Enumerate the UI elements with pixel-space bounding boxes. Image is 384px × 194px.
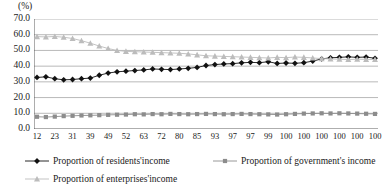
data-series <box>35 111 377 119</box>
data-point-marker <box>284 112 288 116</box>
data-point-marker <box>373 112 377 116</box>
data-point-marker <box>150 66 156 72</box>
legend-label: Proportion of government's income <box>241 155 375 167</box>
legend-marker-square-icon <box>212 154 238 168</box>
plot-area <box>34 19 378 129</box>
data-point-marker <box>105 70 111 76</box>
y-axis-tick-label: 20.0 <box>13 93 30 103</box>
x-axis-tick-label: 49 <box>104 131 113 141</box>
data-point-marker <box>311 111 315 115</box>
chart-legend: Proportion of residents'incomeProportion… <box>24 152 376 190</box>
data-point-marker <box>176 66 182 72</box>
y-axis-tick-label: 60.0 <box>13 30 30 40</box>
legend-entry[interactable]: Proportion of government's income <box>212 152 375 169</box>
x-axis-tick-label: 100 <box>369 131 382 141</box>
data-point-marker <box>293 112 297 116</box>
data-point-marker <box>70 114 74 118</box>
data-point-marker <box>168 67 174 73</box>
legend-marker-diamond-icon <box>24 154 50 168</box>
x-axis-tick-label: 80 <box>175 131 184 141</box>
x-axis-tick-label: 100 <box>297 131 310 141</box>
data-point-marker <box>151 112 155 116</box>
x-axis-tick-label: 63 <box>139 131 148 141</box>
data-point-marker <box>302 112 306 116</box>
data-point-marker <box>222 112 226 116</box>
data-point-marker <box>204 112 208 116</box>
chart-figure: (%) 0.010.020.030.040.050.060.070.0 1223… <box>0 0 384 194</box>
data-point-marker <box>266 112 270 116</box>
data-point-marker <box>194 65 200 71</box>
data-point-marker <box>87 75 93 81</box>
x-axis-tick-label: 97 <box>246 131 255 141</box>
legend-entry[interactable]: Proportion of residents'income <box>24 152 170 169</box>
y-axis-unit-label: (%) <box>18 1 32 11</box>
x-axis-tick-label: 12 <box>33 131 42 141</box>
data-point-marker <box>62 114 66 118</box>
data-point-marker <box>141 67 147 73</box>
data-point-marker <box>230 61 236 67</box>
x-axis-tick-label: 100 <box>333 131 346 141</box>
data-point-marker <box>159 66 165 72</box>
data-point-marker <box>88 113 92 117</box>
data-point-marker <box>34 158 40 164</box>
y-axis-tick-label: 0.0 <box>18 124 30 134</box>
data-point-marker <box>195 112 199 116</box>
x-axis-tick-label: 31 <box>68 131 77 141</box>
data-point-marker <box>256 60 262 66</box>
x-axis-tick-label: 52 <box>122 131 131 141</box>
x-axis-tick-labels: 1223313949526372808593979799100100100100… <box>34 131 378 145</box>
data-point-marker <box>123 68 129 74</box>
y-axis-tick-labels: 0.010.020.030.040.050.060.070.0 <box>0 19 32 129</box>
data-point-marker <box>186 112 190 116</box>
x-axis-tick-label: 39 <box>86 131 95 141</box>
data-series-layer <box>34 33 378 119</box>
data-point-marker <box>337 111 341 115</box>
data-point-marker <box>44 115 48 119</box>
data-point-marker <box>283 60 289 66</box>
data-point-marker <box>79 113 83 117</box>
legend-row: Proportion of enterprises'income <box>24 170 376 187</box>
data-point-marker <box>96 72 102 78</box>
y-axis-tick-label: 10.0 <box>13 109 30 119</box>
data-point-marker <box>213 112 217 116</box>
data-point-marker <box>231 112 235 116</box>
legend-label: Proportion of enterprises'income <box>53 173 177 185</box>
data-point-marker <box>292 60 298 66</box>
legend-row: Proportion of residents'incomeProportion… <box>24 152 376 169</box>
data-point-marker <box>203 63 209 69</box>
data-point-marker <box>133 112 137 116</box>
data-point-marker <box>248 59 254 65</box>
data-point-marker <box>168 112 172 116</box>
data-point-marker <box>159 112 163 116</box>
data-point-marker <box>114 69 120 75</box>
data-point-marker <box>239 60 245 66</box>
x-axis-tick-label: 100 <box>351 131 364 141</box>
data-point-marker <box>124 112 128 116</box>
x-axis-tick-label: 99 <box>264 131 273 141</box>
data-point-marker <box>79 76 85 82</box>
data-point-marker <box>275 112 279 116</box>
data-point-marker <box>328 111 332 115</box>
data-point-marker <box>355 112 359 116</box>
x-axis-tick-label: 97 <box>228 131 237 141</box>
x-axis-tick-label: 72 <box>157 131 166 141</box>
legend-entry[interactable]: Proportion of enterprises'income <box>24 170 177 187</box>
data-point-marker <box>239 112 243 116</box>
x-axis-tick-label: 100 <box>280 131 293 141</box>
x-axis-tick-label: 85 <box>193 131 202 141</box>
y-axis-tick-label: 70.0 <box>13 14 30 24</box>
x-axis-tick-label: 23 <box>51 131 60 141</box>
x-axis-tick-label: 93 <box>211 131 220 141</box>
data-point-marker <box>43 74 49 80</box>
x-axis-tick-label: 100 <box>315 131 328 141</box>
data-point-marker <box>274 61 280 67</box>
legend-label: Proportion of residents'income <box>53 155 170 167</box>
y-axis-tick-label: 40.0 <box>13 61 30 71</box>
y-axis-tick-label: 50.0 <box>13 46 30 56</box>
data-point-marker <box>248 112 252 116</box>
data-point-marker <box>320 111 324 115</box>
data-point-marker <box>97 113 101 117</box>
data-point-marker <box>212 62 218 68</box>
data-point-marker <box>132 68 138 74</box>
data-point-marker <box>177 112 181 116</box>
